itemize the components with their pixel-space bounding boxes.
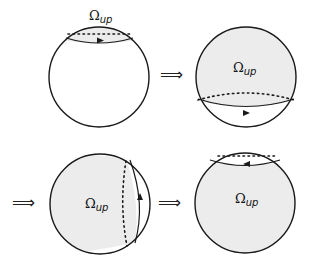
implies-arrow-1: ⟹ (160, 65, 183, 84)
panel-4-sphere: Ωup (190, 153, 300, 260)
panel-2-sphere: Ωup (190, 20, 300, 127)
panel-3-sphere: Ωup (40, 150, 150, 260)
region-label: Ωup (89, 8, 112, 25)
arrowhead-right-icon (243, 110, 250, 116)
sphere-sequence-diagram: Ωup ⟹ Ωup ⟹ Ωup ⟹ Ωup (0, 0, 313, 263)
panel-1-sphere: Ωup (49, 8, 149, 127)
implies-arrow-3: ⟹ (158, 193, 181, 212)
implies-arrow-2: ⟹ (12, 193, 35, 212)
